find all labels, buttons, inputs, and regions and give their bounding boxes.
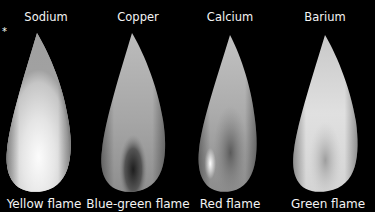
flame-sodium xyxy=(7,33,71,192)
flame-copper xyxy=(101,33,165,192)
label-result-copper: Blue-green flame xyxy=(86,198,189,210)
flame-barium xyxy=(293,35,357,192)
flame-calcium xyxy=(199,35,257,192)
flames-illustration xyxy=(0,0,375,212)
flame-test-figure: * Sodium Copper Calcium Barium xyxy=(0,0,375,212)
label-result-sodium: Yellow flame xyxy=(7,198,82,210)
label-result-calcium: Red flame xyxy=(200,198,261,210)
label-result-barium: Green flame xyxy=(291,198,365,210)
